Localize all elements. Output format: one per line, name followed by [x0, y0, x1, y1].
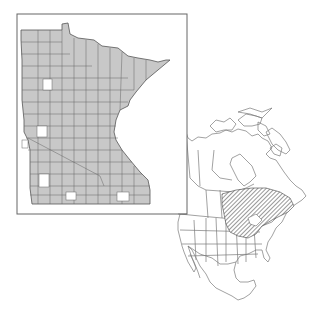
distribution-map-figure: Distribution map: Minnesota county map w… [0, 0, 325, 319]
range-hatched-area [222, 188, 294, 238]
